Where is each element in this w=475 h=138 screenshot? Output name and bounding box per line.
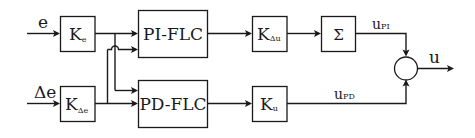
gain-kdu-block: KΔu bbox=[253, 17, 288, 52]
output-u: u bbox=[418, 47, 455, 72]
wire-ke-to-controllers bbox=[95, 30, 138, 94]
gain-kde-block: KΔe bbox=[61, 87, 96, 122]
wire-pd-to-ku bbox=[208, 100, 253, 107]
integrator-block: Σ bbox=[322, 17, 356, 52]
pi-flc-label: PI-FLC bbox=[143, 24, 203, 44]
upi-label: uPI bbox=[372, 16, 390, 32]
input-e-label: e bbox=[38, 12, 48, 32]
pi-flc-block: PI-FLC bbox=[139, 11, 208, 58]
upd-label: uPD bbox=[334, 86, 355, 102]
wire-kdu-to-sigma bbox=[287, 30, 321, 37]
gain-ku-block: Ku bbox=[253, 87, 288, 122]
wire-upd: uPD bbox=[287, 80, 410, 104]
pd-flc-label: PD-FLC bbox=[139, 94, 206, 114]
input-e: e bbox=[27, 12, 60, 37]
sigma-icon: Σ bbox=[333, 26, 344, 44]
wire-kde-to-controllers bbox=[95, 46, 138, 107]
pd-flc-block: PD-FLC bbox=[139, 81, 208, 128]
summing-junction bbox=[395, 57, 418, 80]
input-delta-e-label: Δe bbox=[34, 82, 56, 102]
input-delta-e: Δe bbox=[27, 82, 60, 107]
gain-ke-block: Ke bbox=[61, 17, 96, 52]
fuzzy-pid-block-diagram: e Δe Ke KΔe PI-FLC PD-FLC bbox=[0, 0, 475, 138]
output-u-label: u bbox=[429, 47, 440, 67]
wire-upi: uPI bbox=[356, 16, 410, 57]
wire-pi-to-kdu bbox=[208, 30, 253, 37]
